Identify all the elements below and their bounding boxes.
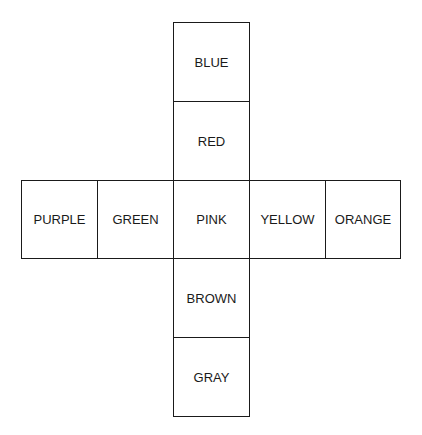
cell-label: ORANGE bbox=[335, 212, 391, 227]
cell-brown: BROWN bbox=[173, 258, 250, 338]
cell-red: RED bbox=[173, 101, 250, 181]
cell-label: PURPLE bbox=[33, 212, 85, 227]
cell-orange: ORANGE bbox=[325, 180, 401, 259]
cell-label: PINK bbox=[196, 212, 226, 227]
cell-label: BLUE bbox=[195, 55, 229, 70]
cell-blue: BLUE bbox=[173, 22, 250, 102]
cell-gray: GRAY bbox=[173, 337, 250, 417]
cell-yellow: YELLOW bbox=[249, 180, 326, 259]
cell-label: GRAY bbox=[194, 370, 230, 385]
cell-label: GREEN bbox=[112, 212, 158, 227]
cell-label: RED bbox=[198, 134, 225, 149]
cell-label: YELLOW bbox=[260, 212, 314, 227]
cell-green: GREEN bbox=[97, 180, 174, 259]
cell-label: BROWN bbox=[187, 291, 237, 306]
cell-purple: PURPLE bbox=[21, 180, 98, 259]
cell-pink: PINK bbox=[173, 180, 250, 259]
